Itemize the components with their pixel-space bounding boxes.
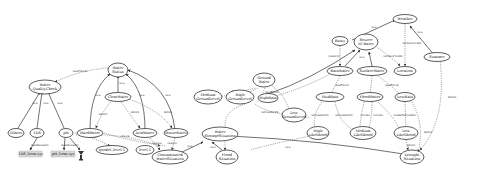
nodes: Weather Rainy Source of Water Summer Rai… [8, 15, 450, 165]
svg-text:Water: Water [40, 83, 51, 87]
svg-text:HardWater: HardWater [80, 131, 100, 135]
node-water-quality-check[interactable]: Water QualityCheck [29, 80, 61, 94]
edge-label: infers [99, 112, 108, 116]
edge-label: is-a [58, 101, 63, 105]
edge-rainwater-source [345, 50, 360, 66]
edge-label: isPossibleTo [335, 113, 353, 117]
node-water-storage-situation[interactable]: Water StorageSituation [202, 127, 238, 141]
edge-acid-status [126, 74, 145, 130]
edge-label: isPossibleTo [311, 113, 329, 117]
svg-text:StorageSituation: StorageSituation [205, 134, 237, 138]
node-ph[interactable]: pH [59, 129, 73, 138]
svg-text:Likelihood: Likelihood [308, 133, 328, 137]
node-location[interactable]: Location [394, 67, 416, 76]
edge-label: hasFlood [386, 83, 399, 87]
node-surface-water[interactable]: SurfaceWater [357, 67, 387, 76]
edge-label: check [121, 134, 130, 138]
node-summer[interactable]: Summer [424, 53, 450, 62]
svg-text:RainWater: RainWater [330, 69, 349, 73]
node-high-ground-level[interactable]: High GroundLevel [226, 90, 254, 104]
node-water-status[interactable]: Water Status [108, 63, 128, 77]
node-medium-likelihood[interactable]: Medium Likelihood [350, 127, 376, 140]
svg-text:High: High [314, 129, 324, 133]
node-drought-situation[interactable]: Drought Situation [400, 150, 424, 164]
edge-label: is-a [418, 30, 423, 34]
edge-waste-status [128, 70, 175, 130]
node-good-level[interactable]: goodel_level.1 [96, 146, 128, 155]
node-tds[interactable]: TDS [30, 129, 44, 138]
svg-text:AcidWater: AcidWater [135, 131, 155, 135]
node-ph-sensor-box[interactable]: pH_from.sys [51, 151, 75, 157]
svg-text:ClearWater: ClearWater [108, 95, 129, 99]
svg-text:Likelihood: Likelihood [353, 133, 373, 137]
edge-surface-source [369, 52, 372, 66]
edge-label: hasCheck [73, 69, 87, 73]
edge-summer-drought [420, 60, 441, 150]
svg-text:of Water: of Water [358, 42, 374, 46]
node-acid-water[interactable]: AcidWater [133, 129, 157, 138]
edge-label: hasFlood [336, 83, 349, 87]
node-high-likelihood[interactable]: High Likelihood [307, 127, 329, 140]
svg-text:FloodWater: FloodWater [359, 95, 380, 99]
edge-label: hasMeasure [61, 143, 79, 147]
edge-tds-check [37, 92, 42, 128]
svg-text:WasteWater: WasteWater [165, 131, 187, 135]
svg-text:Status: Status [112, 70, 124, 74]
node-source-of-water[interactable]: Source of Water [354, 34, 378, 50]
edge-label: is-a [188, 144, 193, 148]
svg-text:GroundLevel: GroundLevel [282, 115, 306, 119]
edge-label: infers [407, 143, 416, 147]
edge-others-check [18, 92, 40, 128]
edge-label: levelIs [373, 113, 383, 117]
edge-label: isObservedIn [403, 41, 422, 45]
edge-label: infers [164, 110, 173, 114]
edge [120, 100, 140, 128]
svg-text:HighRain: HighRain [259, 96, 277, 100]
node-flood-water[interactable]: FloodWater [357, 93, 383, 102]
sensor-antenna-icon [78, 151, 84, 161]
node-mud-rain[interactable]: MudRain [316, 93, 344, 102]
node-weather[interactable]: Weather [393, 15, 417, 24]
svg-text:Source: Source [360, 38, 373, 42]
edge-label: leads-to [328, 54, 340, 58]
edge-label: infers [131, 110, 140, 114]
svg-text:Rainy: Rainy [335, 39, 346, 43]
node-rain-water[interactable]: RainWater [327, 67, 353, 76]
node-low-rain[interactable]: LowRain [395, 93, 415, 102]
node-rainy[interactable]: Rainy [332, 37, 348, 46]
svg-text:Situation: Situation [219, 157, 236, 161]
svg-text:TDS: TDS [33, 131, 41, 135]
edge-label: infers [448, 95, 457, 99]
edge-label: is-a [166, 93, 171, 97]
svg-text:Situation: Situation [404, 157, 421, 161]
node-hard-water[interactable]: HardWater [77, 129, 103, 138]
node-low-likelihood[interactable]: Low Likelihood [394, 127, 418, 140]
node-low-ground-level[interactable]: Low GroundLevel [282, 108, 307, 122]
node-ground-water[interactable]: Ground Water [253, 73, 275, 87]
edge-label: isPossibleTo [261, 110, 279, 114]
svg-text:Drought: Drought [404, 153, 420, 157]
svg-text:High: High [236, 93, 246, 97]
svg-text:Low: Low [290, 111, 299, 115]
edge-label: is-a [211, 145, 216, 149]
node-tds-sensor-box[interactable]: TDS_from.sys [18, 151, 43, 157]
svg-text:pH_from.sys: pH_from.sys [52, 152, 75, 156]
node-waste-water[interactable]: WasteWater [164, 129, 188, 138]
svg-text:Water: Water [113, 66, 124, 70]
node-medium-ground-level[interactable]: Medium GroundLevel [194, 90, 222, 104]
node-flood-situation[interactable]: Flood Situation [216, 150, 238, 164]
knowledge-graph-diagram: is-a is-a isObservedIn leads-to is-a isO… [0, 0, 481, 176]
svg-text:SurfaceWater: SurfaceWater [360, 69, 385, 73]
node-high-rain[interactable]: HighRain [258, 94, 278, 103]
svg-text:Flood: Flood [222, 153, 233, 157]
node-contaminated-water-situation[interactable]: Contaminated WaterSituation [152, 150, 188, 164]
svg-text:LowRain: LowRain [397, 95, 414, 99]
edge-label: is-a [44, 101, 49, 105]
node-level[interactable]: level.1 [136, 146, 154, 155]
svg-text:Ground: Ground [257, 76, 271, 80]
node-clear-water[interactable]: ClearWater [105, 93, 131, 102]
node-others[interactable]: Others [8, 129, 24, 138]
svg-text:Others: Others [10, 131, 23, 135]
svg-text:TDS_from.sys: TDS_from.sys [18, 152, 43, 156]
edge-label: levelIs [360, 113, 370, 117]
